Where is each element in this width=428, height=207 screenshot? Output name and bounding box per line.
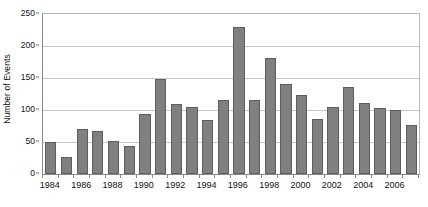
bar[interactable]: [406, 125, 417, 174]
bar[interactable]: [155, 79, 166, 174]
x-axis-tick-marks: [42, 174, 420, 179]
bar-slot: [341, 14, 357, 174]
x-axis-tick-mark: [42, 174, 43, 178]
bar[interactable]: [77, 129, 88, 174]
bar-slot: [168, 14, 184, 174]
x-axis-tick-mark: [89, 174, 90, 178]
bar-slot: [231, 14, 247, 174]
bar-slot: [372, 14, 388, 174]
x-axis-tick-mark: [199, 174, 200, 178]
bar[interactable]: [92, 131, 103, 174]
x-axis-tick-mark: [167, 174, 168, 178]
bar-slot: [74, 14, 90, 174]
bar-slot: [388, 14, 404, 174]
x-axis-tick-mark: [371, 174, 372, 178]
x-axis-tick-label: 1994: [196, 180, 216, 190]
y-axis-tick-mark: [36, 141, 39, 142]
y-axis-tick-mark: [36, 109, 39, 110]
x-axis-tick-mark: [246, 174, 247, 178]
bar[interactable]: [61, 157, 72, 174]
x-axis-tick-mark: [387, 174, 388, 178]
x-axis-tick-mark: [136, 174, 137, 178]
bar[interactable]: [233, 27, 244, 174]
x-axis-tick-label: 1992: [165, 180, 185, 190]
plot-area: [42, 13, 420, 175]
x-axis-tick-mark: [402, 174, 403, 178]
x-axis-tick-mark: [293, 174, 294, 178]
x-axis-tick-mark: [261, 174, 262, 178]
x-axis-tick-label: 1986: [71, 180, 91, 190]
bar-slot: [325, 14, 341, 174]
x-axis-tick-mark: [230, 174, 231, 178]
bar-slot: [215, 14, 231, 174]
bar[interactable]: [202, 120, 213, 174]
x-axis-tick-mark: [120, 174, 121, 178]
bar[interactable]: [139, 114, 150, 174]
y-axis-tick-labels: 050100150200250: [12, 0, 39, 180]
x-axis-tick-mark: [152, 174, 153, 178]
bar-slot: [403, 14, 419, 174]
bar[interactable]: [186, 107, 197, 174]
bar[interactable]: [171, 104, 182, 174]
bar-slot: [90, 14, 106, 174]
x-axis-tick-label: 2004: [353, 180, 373, 190]
bar[interactable]: [343, 87, 354, 174]
x-axis-tick-label: 1996: [228, 180, 248, 190]
x-axis-tick-label: 1984: [40, 180, 60, 190]
x-axis-tick-labels: 1984198619881990199219941996199820002002…: [0, 180, 428, 198]
y-axis-tick-label: 250: [21, 8, 35, 18]
bar-slot: [59, 14, 75, 174]
bar-slot: [309, 14, 325, 174]
y-axis-tick-label: 0: [30, 168, 35, 178]
bar[interactable]: [124, 146, 135, 174]
bar-slot: [43, 14, 59, 174]
x-axis-tick-label: 1998: [259, 180, 279, 190]
x-axis-tick-mark: [105, 174, 106, 178]
y-axis-tick-label: 100: [21, 104, 35, 114]
y-axis-tick-mark: [36, 77, 39, 78]
x-axis-tick-mark: [308, 174, 309, 178]
bar[interactable]: [312, 119, 323, 174]
bar-chart: Number of Events 050100150200250 1984198…: [0, 0, 428, 207]
bar[interactable]: [108, 141, 119, 174]
y-axis-tick-label: 150: [21, 72, 35, 82]
y-axis-tick-label: 200: [21, 40, 35, 50]
bar-slot: [121, 14, 137, 174]
bar[interactable]: [390, 110, 401, 174]
x-axis-tick-mark: [355, 174, 356, 178]
bar-slot: [247, 14, 263, 174]
bar-slot: [278, 14, 294, 174]
y-axis-title-text: Number of Events: [2, 54, 12, 124]
x-axis-tick-label: 2002: [322, 180, 342, 190]
x-axis-tick-mark: [214, 174, 215, 178]
y-axis-tick-label: 50: [26, 136, 35, 146]
x-axis-tick-mark: [324, 174, 325, 178]
bar-slot: [262, 14, 278, 174]
bars-layer: [43, 14, 419, 174]
x-axis-tick-mark: [418, 174, 419, 178]
bar[interactable]: [296, 95, 307, 174]
bar[interactable]: [218, 100, 229, 174]
x-axis-tick-mark: [340, 174, 341, 178]
x-axis-tick-mark: [183, 174, 184, 178]
x-axis-tick-mark: [58, 174, 59, 178]
bar[interactable]: [359, 103, 370, 174]
bar-slot: [294, 14, 310, 174]
bar[interactable]: [265, 58, 276, 174]
y-axis-tick-mark: [36, 173, 39, 174]
x-axis-tick-label: 2000: [290, 180, 310, 190]
bar-slot: [137, 14, 153, 174]
bar[interactable]: [45, 142, 56, 174]
bar[interactable]: [249, 100, 260, 174]
bar[interactable]: [327, 107, 338, 174]
bar[interactable]: [280, 84, 291, 174]
y-axis-tick-mark: [36, 45, 39, 46]
bar-slot: [106, 14, 122, 174]
bar-slot: [153, 14, 169, 174]
x-axis-tick-label: 2006: [384, 180, 404, 190]
bar-slot: [200, 14, 216, 174]
x-axis-tick-label: 1990: [134, 180, 154, 190]
bar[interactable]: [374, 108, 385, 174]
y-axis-tick-mark: [36, 13, 39, 14]
x-axis-tick-mark: [277, 174, 278, 178]
